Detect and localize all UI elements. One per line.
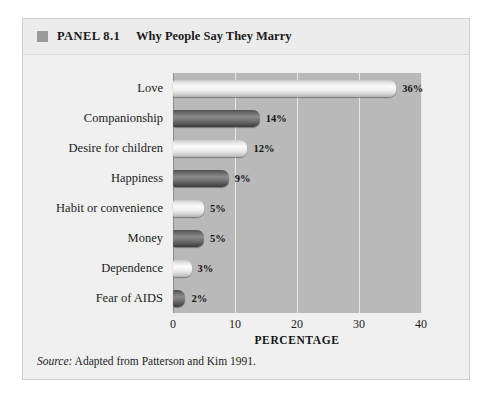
category-label: Love (23, 73, 171, 103)
bar (173, 290, 185, 307)
bar-value-label: 36% (402, 83, 423, 94)
category-label: Fear of AIDS (23, 283, 171, 313)
bar-row: 5% (173, 223, 226, 253)
chart-area: LoveCompanionshipDesire for childrenHapp… (23, 55, 469, 347)
source-text: Adapted from Patterson and Kim 1991. (72, 355, 256, 367)
bar (173, 200, 204, 217)
x-tick-label: 30 (353, 317, 365, 332)
plot-area: 36%14%12%9%5%5%3%2% (173, 73, 421, 313)
bar-value-label: 9% (235, 173, 251, 184)
gridline (359, 73, 360, 313)
value-axis-ticks: 010203040 (173, 317, 421, 335)
panel-title-bar: PANEL 8.1 Why People Say They Marry (23, 19, 469, 55)
bar (173, 140, 247, 157)
bar-value-label: 14% (266, 113, 287, 124)
x-tick-label: 10 (229, 317, 241, 332)
category-label: Happiness (23, 163, 171, 193)
panel-number: PANEL 8.1 (57, 29, 120, 44)
bar-row: 2% (173, 283, 207, 313)
bar-value-label: 5% (210, 233, 226, 244)
bar (173, 230, 204, 247)
category-label: Desire for children (23, 133, 171, 163)
source-note: Source: Adapted from Patterson and Kim 1… (37, 355, 256, 367)
bar-value-label: 5% (210, 203, 226, 214)
bar-row: 14% (173, 103, 287, 133)
bar-value-label: 2% (191, 293, 207, 304)
panel-figure: PANEL 8.1 Why People Say They Marry Love… (22, 18, 470, 380)
category-label: Habit or convenience (23, 193, 171, 223)
bar (173, 260, 192, 277)
category-label: Dependence (23, 253, 171, 283)
bar (173, 170, 229, 187)
bar-row: 9% (173, 163, 251, 193)
bar-row: 12% (173, 133, 274, 163)
category-label: Money (23, 223, 171, 253)
gridline (421, 73, 422, 313)
x-tick-label: 20 (291, 317, 303, 332)
x-tick-label: 0 (170, 317, 176, 332)
bar-row: 5% (173, 193, 226, 223)
bar-value-label: 12% (253, 143, 274, 154)
category-axis-labels: LoveCompanionshipDesire for childrenHapp… (23, 73, 171, 313)
source-label: Source: (37, 355, 72, 367)
bar (173, 110, 260, 127)
bar-row: 36% (173, 73, 423, 103)
x-axis-title: PERCENTAGE (173, 334, 421, 346)
bar-value-label: 3% (198, 263, 214, 274)
gridline (297, 73, 298, 313)
x-tick-label: 40 (415, 317, 427, 332)
page-title: Why People Say They Marry (136, 29, 291, 44)
bar (173, 80, 396, 97)
bar-row: 3% (173, 253, 213, 283)
category-label: Companionship (23, 103, 171, 133)
square-marker-icon (37, 31, 48, 42)
